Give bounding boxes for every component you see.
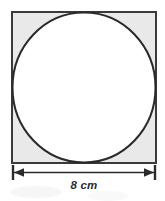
scan-artifact-smudge-secondary: [88, 191, 128, 201]
dimension-label: 8 cm: [70, 179, 97, 191]
figure-canvas: 8 cm: [0, 0, 165, 201]
inscribed-circle-shape: [13, 13, 156, 163]
geometry-figure: 8 cm: [0, 0, 165, 201]
scan-artifact-smudge: [10, 186, 62, 198]
